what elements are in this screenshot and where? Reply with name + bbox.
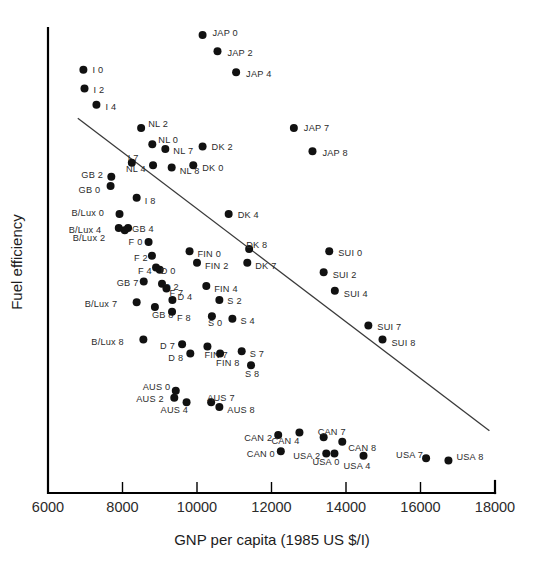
data-point-S4 — [228, 315, 236, 323]
data-point-label-NL4: NL 4 — [126, 164, 146, 174]
data-point-FIN0 — [186, 247, 194, 255]
data-point-NL8 — [168, 164, 176, 172]
data-point-I8 — [133, 194, 141, 202]
data-point-label-AUS0: AUS 0 — [143, 382, 171, 392]
data-point-label-F2: F 2 — [134, 253, 148, 263]
data-point-S8 — [247, 361, 255, 369]
data-point-I2 — [81, 84, 89, 92]
data-point-label-GB0: GB 0 — [79, 185, 101, 195]
data-point-S2 — [215, 296, 223, 304]
data-point-GB2 — [107, 173, 115, 181]
data-point-label-CAN2: CAN 2 — [244, 433, 272, 443]
data-point-B/Lux0 — [116, 210, 124, 218]
data-point-label-GB4: GB 4 — [132, 224, 154, 234]
data-point-label-FIN0: FIN 0 — [198, 249, 221, 259]
data-point-label-FIN4: FIN 4 — [214, 284, 237, 294]
data-point-label-AUS7: AUS 7 — [207, 393, 235, 403]
x-tick-label-8000: 8000 — [106, 499, 138, 515]
data-point-NL2 — [137, 124, 145, 132]
data-point-JAP7 — [290, 124, 298, 132]
scatter-plot-figure: 600080001000012000140001600018000 JAP 0J… — [0, 0, 541, 568]
data-point-SUI4 — [331, 287, 339, 295]
data-point-I4 — [92, 101, 100, 109]
data-point-USA8 — [444, 456, 452, 464]
data-point-label-AUS4: AUS 4 — [161, 405, 189, 415]
data-point-label-USA4: USA 4 — [344, 461, 371, 471]
data-point-label-F8: F 8 — [177, 313, 191, 323]
data-point-label-I0: I 0 — [92, 65, 103, 75]
data-point-AUS2 — [170, 394, 178, 402]
data-point-label-B/Lux0: B/Lux 0 — [72, 208, 105, 218]
data-point-label-USA7: USA 7 — [396, 450, 423, 460]
data-point-label-JAP8: JAP 8 — [322, 148, 347, 158]
data-point-SUI8 — [379, 336, 387, 344]
data-point-label-B/Lux8: B/Lux 8 — [91, 337, 124, 347]
data-point-label-F4: F 4 — [138, 266, 152, 276]
data-point-DK0 — [189, 161, 197, 169]
data-point-S7 — [238, 347, 246, 355]
data-point-label-FIN8: FIN 8 — [216, 358, 239, 368]
data-point-NL7 — [161, 145, 169, 153]
data-point-USA2 — [322, 449, 330, 457]
data-point-label-S4: S 4 — [240, 316, 254, 326]
x-tick-label-18000: 18000 — [475, 499, 515, 515]
data-point-USA4 — [360, 452, 368, 460]
data-point-label-SUI4: SUI 4 — [344, 289, 368, 299]
data-point-label-DK8: DK 8 — [246, 240, 267, 250]
data-point-B/Lux8 — [139, 336, 147, 344]
data-point-label-S7: S 7 — [250, 349, 264, 359]
data-point-D4 — [168, 296, 176, 304]
data-point-label-D0: D 0 — [161, 266, 176, 276]
data-point-label-AUS8: AUS 8 — [227, 405, 255, 415]
data-point-label-USA8: USA 8 — [456, 452, 483, 462]
x-axis-ticks — [123, 482, 421, 493]
data-point-label-SUI0: SUI 0 — [338, 248, 362, 258]
data-point-label-CAN8: CAN 8 — [348, 443, 376, 453]
data-point-label-JAP4: JAP 4 — [246, 69, 271, 79]
data-point-DK2 — [199, 143, 207, 151]
data-point-USA0 — [330, 449, 338, 457]
data-point-JAP2 — [213, 47, 221, 55]
data-point-label-NL7: NL 7 — [173, 146, 193, 156]
data-point-D7 — [178, 340, 186, 348]
data-point-DK7 — [243, 259, 251, 267]
data-point-FIN8 — [216, 350, 224, 358]
data-point-label-JAP0: JAP 0 — [213, 28, 238, 38]
data-point-SUI7 — [364, 322, 372, 330]
data-point-label-I2: I 2 — [94, 85, 105, 95]
data-point-F0 — [145, 238, 153, 246]
data-point-D8 — [186, 350, 194, 358]
data-point-AUS0 — [172, 387, 180, 395]
data-point-label-CAN7: CAN 7 — [318, 427, 346, 437]
data-point-label-I4: I 4 — [105, 102, 116, 112]
data-point-AUS8 — [215, 403, 223, 411]
data-point-label-NL0: NL 0 — [158, 135, 178, 145]
x-axis-title: GNP per capita (1985 US $/I) — [174, 531, 370, 548]
data-point-label-S8: S 8 — [245, 369, 259, 379]
x-tick-label-14000: 14000 — [326, 499, 366, 515]
data-point-I0 — [79, 66, 87, 74]
data-point-FIN2 — [193, 259, 201, 267]
data-point-NL0 — [148, 140, 156, 148]
data-point-NL4 — [149, 161, 157, 169]
data-point-label-F0: F 0 — [129, 237, 143, 247]
data-point-USA7 — [422, 454, 430, 462]
data-point-label-I7: I 7 — [128, 153, 139, 163]
x-axis-tick-labels: 600080001000012000140001600018000 — [32, 499, 515, 515]
data-point-label-GB7: GB 7 — [117, 278, 139, 288]
data-point-label-B/Lux2: B/Lux 2 — [73, 233, 106, 243]
data-point-JAP4 — [232, 68, 240, 76]
data-point-label-D7: D 7 — [160, 341, 175, 351]
data-point-label-NL2: NL 2 — [148, 119, 168, 129]
plot-canvas: 600080001000012000140001600018000 JAP 0J… — [0, 0, 541, 568]
data-point-label-SUI8: SUI 8 — [392, 338, 416, 348]
data-point-label-JAP7: JAP 7 — [304, 123, 329, 133]
data-point-JAP0 — [199, 31, 207, 39]
data-point-label-USA0: USA 0 — [312, 457, 339, 467]
data-point-label-DK2: DK 2 — [212, 142, 233, 152]
x-tick-label-16000: 16000 — [400, 499, 440, 515]
x-tick-label-12000: 12000 — [251, 499, 291, 515]
data-point-B/Lux7 — [133, 298, 141, 306]
data-point-label-S0: S 0 — [208, 318, 222, 328]
data-point-label-D4: D 4 — [177, 292, 192, 302]
